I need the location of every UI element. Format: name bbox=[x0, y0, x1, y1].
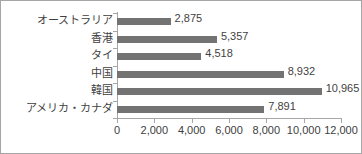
bar-value-label: 10,965 bbox=[322, 82, 360, 95]
plot-area: 2,875 5,357 4,518 8,932 10,965 7,891 bbox=[117, 13, 341, 118]
x-axis-tick-label: 4,000 bbox=[178, 124, 206, 136]
bar[interactable] bbox=[117, 36, 217, 43]
bar-row: 4,518 bbox=[117, 48, 341, 66]
category-tick bbox=[113, 31, 117, 32]
category-label: 中国 bbox=[9, 67, 113, 80]
x-axis-tick bbox=[304, 119, 305, 123]
category-tick bbox=[113, 48, 117, 49]
x-axis-tick-label: 0 bbox=[114, 124, 120, 136]
bar-row: 2,875 bbox=[117, 13, 341, 31]
bar[interactable] bbox=[117, 106, 264, 113]
x-axis-tick bbox=[117, 119, 118, 123]
category-tick bbox=[113, 66, 117, 67]
bar-value-label: 8,932 bbox=[284, 65, 316, 78]
bar-row: 8,932 bbox=[117, 66, 341, 84]
bar-chart: オーストラリア 香港 タイ 中国 韓国 アメリカ・カナダ 2,875 5,357… bbox=[0, 0, 362, 154]
x-axis-tick-label: 2,000 bbox=[141, 124, 169, 136]
x-axis-tick-label: 6,000 bbox=[215, 124, 243, 136]
bar-value-label: 5,357 bbox=[217, 30, 249, 43]
x-axis-tick bbox=[341, 119, 342, 123]
bar[interactable] bbox=[117, 53, 201, 60]
category-label: アメリカ・カナダ bbox=[9, 102, 113, 115]
category-tick bbox=[113, 13, 117, 14]
category-label: 香港 bbox=[9, 32, 113, 45]
x-axis-tick bbox=[192, 119, 193, 123]
category-label: タイ bbox=[9, 49, 113, 62]
bar-row: 10,965 bbox=[117, 83, 341, 101]
category-label: 韓国 bbox=[9, 84, 113, 97]
bar-row: 5,357 bbox=[117, 31, 341, 49]
bar-row: 7,891 bbox=[117, 101, 341, 119]
x-axis-tick bbox=[154, 119, 155, 123]
x-axis-tick bbox=[266, 119, 267, 123]
x-axis-tick bbox=[229, 119, 230, 123]
bar-value-label: 2,875 bbox=[171, 12, 203, 25]
x-axis-tick-label: 10,000 bbox=[287, 124, 321, 136]
bar[interactable] bbox=[117, 71, 284, 78]
category-tick bbox=[113, 83, 117, 84]
x-axis-tick-label: 8,000 bbox=[253, 124, 281, 136]
category-tick bbox=[113, 101, 117, 102]
bar-value-label: 7,891 bbox=[264, 100, 296, 113]
x-axis-tick-label: 12,000 bbox=[324, 124, 358, 136]
bar-value-label: 4,518 bbox=[201, 47, 233, 60]
category-label: オーストラリア bbox=[9, 14, 113, 27]
bar[interactable] bbox=[117, 18, 171, 25]
bar[interactable] bbox=[117, 88, 322, 95]
